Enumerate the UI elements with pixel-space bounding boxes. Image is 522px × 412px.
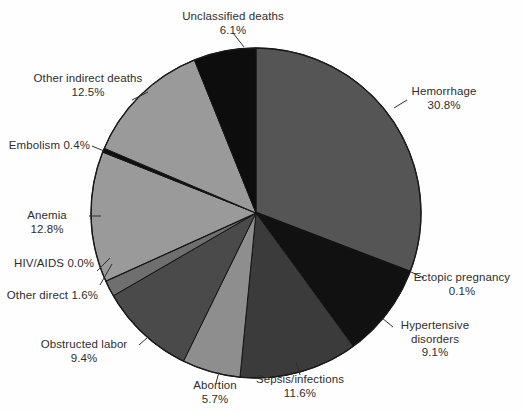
slice-label-unclassified-deaths-name: Unclassified deaths (158, 10, 308, 24)
slice-label-anemia-name: Anemia (8, 209, 86, 223)
slice-label-hemorrhage-value: 30.8% (389, 99, 499, 113)
slice-label-hemorrhage-name: Hemorrhage (389, 85, 499, 99)
slice-label-other-direct-name: Other direct (7, 289, 68, 301)
slice-label-anemia-value: 12.8% (8, 223, 86, 237)
slice-label-hiv-aids-name: HIV/AIDS (14, 257, 64, 269)
slice-label-unclassified-deaths: Unclassified deaths 6.1% (158, 10, 308, 37)
slice-label-embolism-value: 0.4% (63, 139, 90, 151)
slice-label-other-indirect-deaths-name: Other indirect deaths (13, 72, 163, 86)
slice-label-hiv-aids-value: 0.0% (67, 257, 94, 269)
slice-label-hemorrhage: Hemorrhage 30.8% (389, 85, 499, 112)
slice-label-hypertensive-disorders: Hypertensive disorders 9.1% (380, 319, 490, 360)
slice-label-hypertensive-disorders-value: 9.1% (380, 346, 490, 360)
slice-label-hiv-aids: HIV/AIDS 0.0% (0, 257, 94, 271)
slice-label-embolism: Embolism 0.4% (0, 139, 90, 153)
slice-label-other-indirect-deaths-value: 12.5% (13, 86, 163, 100)
slice-label-obstructed-labor-name: Obstructed labor (28, 338, 140, 352)
slice-label-other-direct: Other direct 1.6% (0, 289, 98, 303)
slice-label-obstructed-labor: Obstructed labor 9.4% (28, 338, 140, 365)
slice-label-embolism-name: Embolism (9, 139, 60, 151)
slice-label-hypertensive-disorders-name: Hypertensive (380, 319, 490, 333)
slice-label-sepsis-infections: Sepsis/infections 11.6% (237, 373, 363, 400)
slice-label-sepsis-infections-name: Sepsis/infections (237, 373, 363, 387)
slice-label-anemia: Anemia 12.8% (8, 209, 86, 236)
pie-chart-figure: Unclassified deaths 6.1% Other indirect … (0, 0, 522, 412)
slice-label-other-direct-value: 1.6% (71, 289, 98, 301)
slice-label-hypertensive-disorders-name2: disorders (380, 333, 490, 347)
slice-label-ectopic-pregnancy-value: 0.1% (402, 285, 522, 299)
slice-label-unclassified-deaths-value: 6.1% (158, 24, 308, 38)
slice-label-ectopic-pregnancy: Ectopic pregnancy 0.1% (402, 271, 522, 298)
slice-label-ectopic-pregnancy-name: Ectopic pregnancy (402, 271, 522, 285)
leader-line-embolism (92, 146, 104, 151)
slice-label-obstructed-labor-value: 9.4% (28, 352, 140, 366)
slice-label-sepsis-infections-value: 11.6% (237, 387, 363, 401)
slice-label-other-indirect-deaths: Other indirect deaths 12.5% (13, 72, 163, 99)
leader-line-obstructed-labor (139, 337, 148, 345)
